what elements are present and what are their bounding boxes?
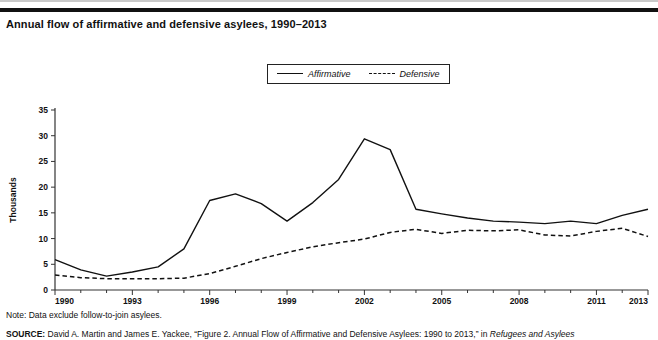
svg-text:1990: 1990 xyxy=(55,296,74,305)
legend-line-solid-icon xyxy=(277,70,303,78)
source-italic: Refugees and Asylees xyxy=(490,329,575,339)
chart-page: Annual flow of affirmative and defensive… xyxy=(0,0,658,340)
x-axis-ticks: 199019931996199920022005200820112013 xyxy=(55,290,648,305)
svg-text:20: 20 xyxy=(39,182,49,192)
chart-source: SOURCE: David A. Martin and James E. Yac… xyxy=(6,329,575,339)
svg-text:10: 10 xyxy=(39,234,49,244)
source-text: David A. Martin and James E. Yackee, “Fi… xyxy=(48,329,488,339)
y-axis-title-group: Thousands xyxy=(8,177,18,223)
legend-label-affirmative: Affirmative xyxy=(308,69,351,79)
axis-lines xyxy=(55,108,648,290)
svg-text:0: 0 xyxy=(43,285,48,295)
legend-label-defensive: Defensive xyxy=(400,69,440,79)
source-prefix: SOURCE: xyxy=(6,329,45,339)
top-rule-thin xyxy=(0,0,658,2)
svg-text:25: 25 xyxy=(39,156,49,166)
svg-text:1996: 1996 xyxy=(200,296,219,305)
y-axis-ticks: 05101520253035 xyxy=(39,105,55,295)
svg-text:2011: 2011 xyxy=(587,296,606,305)
svg-text:2008: 2008 xyxy=(510,296,529,305)
chart-legend: Affirmative Defensive xyxy=(267,64,450,84)
page-title: Annual flow of affirmative and defensive… xyxy=(6,18,327,30)
svg-text:Thousands: Thousands xyxy=(8,177,18,223)
svg-text:2013: 2013 xyxy=(629,296,648,305)
plot-area: Thousands 05101520253035 199019931996199… xyxy=(0,100,658,300)
chart-note: Note: Data exclude follow-to-join asylee… xyxy=(6,310,162,320)
legend-item-defensive[interactable]: Defensive xyxy=(369,69,440,79)
svg-text:1999: 1999 xyxy=(278,296,297,305)
svg-text:15: 15 xyxy=(39,208,49,218)
legend-item-affirmative[interactable]: Affirmative xyxy=(277,69,351,79)
top-rule xyxy=(0,8,658,12)
svg-text:2005: 2005 xyxy=(432,296,451,305)
svg-text:5: 5 xyxy=(43,259,48,269)
svg-text:1993: 1993 xyxy=(123,296,142,305)
svg-text:2002: 2002 xyxy=(355,296,374,305)
line-chart-svg: Thousands 05101520253035 199019931996199… xyxy=(0,100,658,305)
svg-text:30: 30 xyxy=(39,131,49,141)
legend-line-dashed-icon xyxy=(369,70,395,78)
svg-text:35: 35 xyxy=(39,105,49,115)
series-line-defensive xyxy=(55,228,648,278)
series-line-affirmative xyxy=(55,139,648,276)
